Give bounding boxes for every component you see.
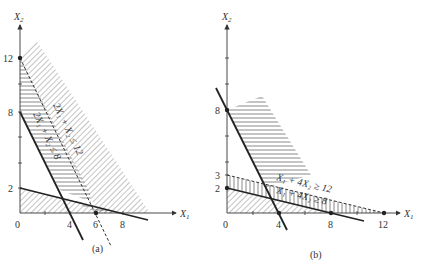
x-tick-8: 8: [120, 219, 125, 230]
y-tick-8: 8: [8, 107, 13, 118]
x-tick-4: 4: [67, 219, 72, 230]
x-tick-12-b: 12: [378, 219, 388, 230]
point-6-0: [94, 211, 98, 215]
x-tick-0: 0: [15, 219, 20, 230]
y-tick-2-b: 2: [215, 183, 220, 194]
point-12-0: [382, 211, 386, 215]
region-b-upper: [227, 96, 311, 188]
point-0-2: [225, 186, 229, 190]
figure: 0 4 6 8 2 8 12 X1 X2 2X₁ + X₂ ≤ 12 2X₁ +…: [0, 0, 423, 268]
y-tick-2: 2: [8, 183, 13, 194]
caption-a: (a): [92, 243, 103, 255]
x-tick-4-b: 4: [276, 219, 281, 230]
x-tick-8-b: 8: [328, 219, 333, 230]
panel-a: 0 4 6 8 2 8 12 X1 X2 2X₁ + X₂ ≤ 12 2X₁ +…: [3, 11, 190, 255]
point-0-12: [18, 56, 22, 60]
y-tick-3-b: 3: [215, 170, 220, 181]
point-0-8: [225, 108, 229, 112]
x-tick-6: 6: [93, 219, 98, 230]
panel-b: 0 4 8 12 2 3 8 X1 X2 X₁ + 4X₂ ≥ 12 X₁ + …: [215, 11, 414, 261]
x2-axis-label: X2: [13, 11, 24, 24]
x2-axis-label-b: X2: [221, 11, 232, 24]
x-tick-0-b: 0: [223, 219, 228, 230]
point-8-0: [329, 211, 333, 215]
caption-b: (b): [310, 249, 322, 261]
x1-axis-label-b: X1: [403, 208, 414, 221]
x1-axis-label: X1: [179, 208, 190, 221]
y-tick-12: 12: [3, 53, 13, 64]
point-4-0: [277, 211, 281, 215]
y-tick-8-b: 8: [215, 105, 220, 116]
